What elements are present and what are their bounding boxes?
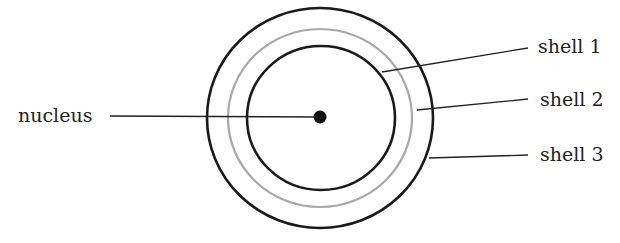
nucleus-leader-line xyxy=(110,116,318,117)
shell-3-leader-line xyxy=(429,155,528,158)
shell-1-label: shell 1 xyxy=(538,37,602,56)
shell-3-label: shell 3 xyxy=(540,145,604,164)
shell-1-leader-line xyxy=(382,48,528,72)
shell-2-leader-line xyxy=(417,99,528,110)
shell-2-label: shell 2 xyxy=(540,90,604,109)
diagram-graphic xyxy=(0,0,620,243)
atom-shell-diagram: nucleus shell 1 shell 2 shell 3 xyxy=(0,0,620,243)
nucleus-label: nucleus xyxy=(18,106,92,125)
